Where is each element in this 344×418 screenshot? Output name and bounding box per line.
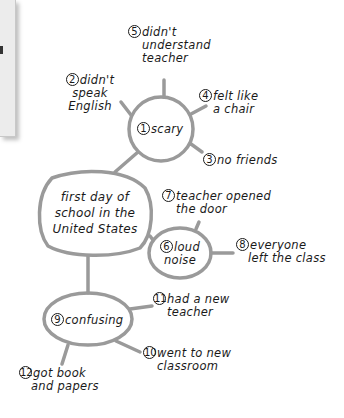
node-label: got book bbox=[33, 366, 86, 380]
node-number-badge: 11 bbox=[153, 292, 166, 305]
node-2-didnt-speak-english: 2didn't speak English bbox=[63, 73, 117, 113]
node-number-badge: 8 bbox=[236, 238, 249, 251]
node-label: the door bbox=[162, 203, 271, 216]
node-label: and papers bbox=[19, 380, 99, 393]
node-label: a chair bbox=[199, 103, 258, 116]
center-label-line: United States bbox=[48, 221, 142, 237]
node-label: everyone bbox=[250, 238, 306, 252]
center-label-line: school in the bbox=[48, 205, 142, 221]
node-number-badge: 2 bbox=[66, 73, 79, 86]
node-number-badge: 4 bbox=[199, 89, 212, 102]
node-number-badge: 12 bbox=[19, 366, 32, 379]
node-label: teacher bbox=[153, 306, 229, 319]
node-number-badge: 5 bbox=[128, 25, 141, 38]
node-7-teacher-opened-the-door: 7teacher opened the door bbox=[162, 189, 271, 216]
node-label: didn't bbox=[80, 73, 115, 87]
node-label: no friends bbox=[217, 153, 278, 167]
node-label: left the class bbox=[236, 252, 326, 265]
node-1-scary: 1scary bbox=[137, 122, 183, 136]
node-number-badge: 10 bbox=[143, 346, 156, 359]
node-label: went to new bbox=[157, 346, 231, 360]
node-label: felt like bbox=[213, 89, 258, 103]
node-11-had-a-new-teacher: 11had a new teacher bbox=[153, 292, 229, 319]
node-6-loud-noise: 6loud noise bbox=[152, 240, 208, 267]
center-label-line: first day of bbox=[48, 189, 142, 205]
node-number-badge: 3 bbox=[203, 153, 216, 166]
node-9-confusing: 9confusing bbox=[51, 313, 123, 327]
node-label: noise bbox=[152, 254, 208, 267]
node-10-went-to-new-classroom: 10went to new classroom bbox=[143, 346, 231, 373]
node-3-no-friends: 3no friends bbox=[203, 153, 278, 167]
node-5-didnt-understand-teacher: 5didn't understand teacher bbox=[128, 25, 211, 65]
node-label: teacher bbox=[128, 52, 211, 65]
node-label: loud bbox=[174, 240, 200, 254]
node-label: scary bbox=[151, 122, 183, 136]
node-label: teacher opened bbox=[176, 189, 271, 203]
node-label: classroom bbox=[143, 360, 231, 373]
node-label: didn't bbox=[142, 25, 177, 39]
center-node-label: first day of school in the United States bbox=[48, 189, 142, 237]
node-label: confusing bbox=[65, 313, 123, 327]
node-number-badge: 9 bbox=[51, 313, 64, 326]
node-number-badge: 1 bbox=[137, 122, 150, 135]
node-label: English bbox=[63, 100, 117, 113]
node-12-got-book-and-papers: 12got book and papers bbox=[19, 366, 99, 393]
node-4-felt-like-a-chair: 4felt like a chair bbox=[199, 89, 258, 116]
node-number-badge: 6 bbox=[160, 240, 173, 253]
node-number-badge: 7 bbox=[162, 189, 175, 202]
node-8-everyone-left-the-class: 8everyone left the class bbox=[236, 238, 326, 265]
node-label: had a new bbox=[167, 292, 229, 306]
